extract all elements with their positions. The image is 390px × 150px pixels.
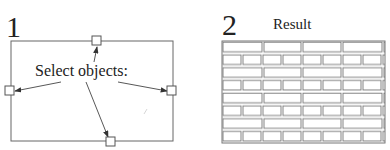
selection-boundary (11, 41, 173, 141)
brick-hatch-area (222, 41, 385, 143)
grip-right[interactable] (167, 86, 176, 95)
stray-mark (144, 109, 147, 114)
grip-top[interactable] (92, 36, 101, 45)
callout-arrows (15, 47, 167, 137)
grip-bottom[interactable] (106, 137, 115, 146)
select-objects-prompt: Select objects: (34, 62, 129, 80)
grip-left[interactable] (5, 86, 14, 95)
